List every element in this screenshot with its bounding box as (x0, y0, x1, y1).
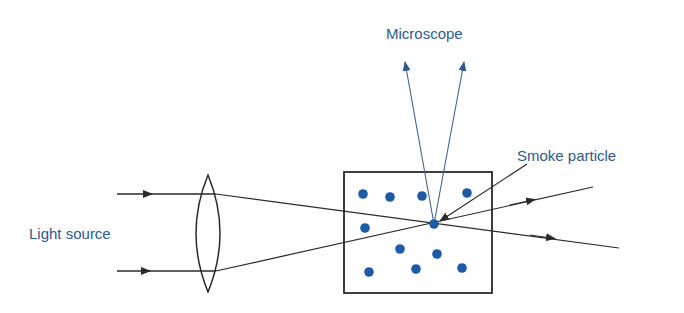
converging-rays (216, 187, 619, 271)
diagram-canvas: Microscope Smoke particle Light source (0, 0, 684, 313)
smoke-particle-dot (395, 244, 405, 254)
smoke-particle-dot (360, 223, 370, 233)
smoke-particle-dot (358, 189, 368, 199)
smoke-particle-dot (462, 188, 472, 198)
smoke-particle-dot (417, 191, 427, 201)
smoke-particles (358, 188, 472, 277)
smoke-particle-dot (429, 219, 439, 229)
incoming-rays (117, 194, 216, 271)
convex-lens (196, 175, 220, 292)
outgoing-ray-arrows (510, 200, 555, 239)
smoke-particle-dot (411, 264, 421, 274)
smoke-particle-label: Smoke particle (517, 147, 616, 164)
smoke-particle-dot (385, 192, 395, 202)
smoke-particle-dot (364, 267, 374, 277)
smoke-particle-dot (457, 263, 467, 273)
scattered-rays (405, 62, 464, 224)
smoke-particle-dot (432, 249, 442, 259)
microscope-label: Microscope (386, 25, 463, 42)
light-source-label: Light source (29, 225, 111, 242)
